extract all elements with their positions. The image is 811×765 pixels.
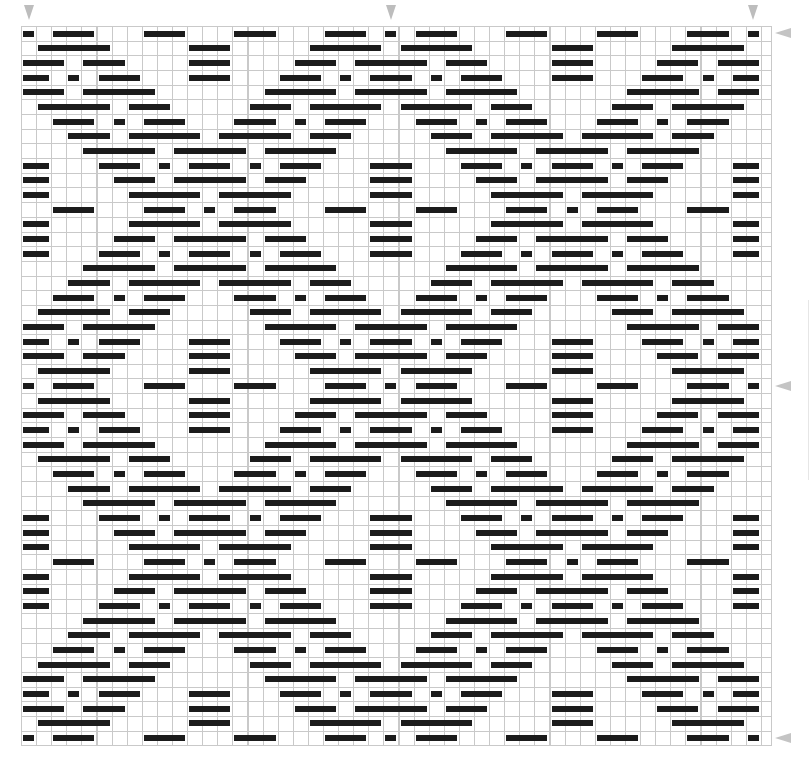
filled-cells-bar: [733, 588, 759, 594]
filled-cells-bar: [491, 662, 532, 668]
filled-cells-bar: [114, 119, 125, 125]
filled-cells-bar: [597, 559, 638, 565]
filled-cells-bar: [642, 691, 683, 697]
filled-cells-bar: [733, 427, 759, 433]
filled-cells-bar: [461, 251, 502, 257]
filled-cells-bar: [657, 60, 698, 66]
filled-cells-bar: [370, 251, 411, 257]
filled-cells-bar: [310, 368, 382, 374]
filled-cells-bar: [23, 192, 49, 198]
filled-cells-bar: [536, 265, 608, 271]
filled-cells-bar: [250, 309, 291, 315]
filled-cells-bar: [219, 486, 291, 492]
filled-cells-bar: [642, 339, 683, 345]
filled-cells-bar: [99, 603, 140, 609]
filled-cells-bar: [597, 119, 638, 125]
filled-cells-bar: [401, 662, 473, 668]
filled-cells-bar: [144, 31, 185, 37]
filled-cells-bar: [536, 500, 608, 506]
filled-cells-bar: [23, 177, 49, 183]
filled-cells-bar: [265, 530, 306, 536]
filled-cells-bar: [401, 456, 473, 462]
filled-cells-bar: [23, 236, 49, 242]
filled-cells-bar: [401, 309, 473, 315]
filled-cells-bar: [446, 618, 518, 624]
filled-cells-bar: [612, 251, 623, 257]
filled-cells-bar: [23, 588, 49, 594]
filled-cells-bar: [340, 75, 351, 81]
filled-cells-bar: [68, 75, 79, 81]
filled-cells-bar: [582, 280, 654, 286]
filled-cells-bar: [68, 486, 109, 492]
filled-cells-bar: [476, 236, 517, 242]
filled-cells-bar: [355, 60, 427, 66]
filled-cells-bar: [174, 500, 246, 506]
filled-cells-bar: [189, 353, 230, 359]
filled-cells-bar: [325, 31, 366, 37]
filled-cells-bar: [370, 544, 411, 550]
filled-cells-bar: [219, 574, 291, 580]
filled-cells-bar: [53, 31, 94, 37]
filled-cells-bar: [23, 544, 49, 550]
filled-cells-bar: [23, 31, 34, 37]
filled-cells-bar: [733, 251, 759, 257]
filled-cells-bar: [431, 427, 442, 433]
filled-cells-bar: [627, 236, 668, 242]
filled-cells-bar: [189, 398, 230, 404]
filled-cells-bar: [672, 133, 713, 139]
filled-cells-bar: [370, 339, 411, 345]
filled-cells-bar: [718, 676, 759, 682]
filled-cells-bar: [129, 309, 170, 315]
filled-cells-bar: [114, 295, 125, 301]
filled-cells-bar: [325, 119, 366, 125]
filled-cells-bar: [657, 412, 698, 418]
filled-cells-bar: [23, 574, 49, 580]
filled-cells-bar: [370, 75, 411, 81]
filled-cells-bar: [672, 720, 744, 726]
filled-cells-bar: [265, 618, 337, 624]
down-triangle-icon: [24, 5, 34, 20]
filled-cells-bar: [491, 280, 563, 286]
filled-cells-bar: [250, 603, 261, 609]
filled-cells-bar: [416, 207, 457, 213]
filled-cells-bar: [144, 471, 185, 477]
filled-cells-bar: [657, 119, 668, 125]
filled-cells-bar: [627, 588, 668, 594]
filled-cells-bar: [189, 427, 230, 433]
filled-cells-bar: [265, 265, 337, 271]
filled-cells-bar: [597, 207, 638, 213]
filled-cells-bar: [234, 647, 275, 653]
filled-cells-bar: [23, 75, 49, 81]
filled-cells-bar: [114, 471, 125, 477]
filled-cells-bar: [491, 632, 563, 638]
filled-cells-bar: [340, 339, 351, 345]
filled-cells-bar: [627, 500, 699, 506]
filled-cells-bar: [99, 251, 140, 257]
filled-cells-bar: [250, 456, 291, 462]
filled-cells-bar: [597, 295, 638, 301]
filled-cells-bar: [491, 544, 563, 550]
filled-cells-bar: [703, 691, 714, 697]
filled-cells-bar: [657, 471, 668, 477]
filled-cells-bar: [672, 368, 744, 374]
filled-cells-bar: [23, 221, 49, 227]
filled-cells-bar: [552, 75, 593, 81]
filled-cells-bar: [672, 280, 713, 286]
filled-cells-bar: [114, 530, 155, 536]
filled-cells-bar: [355, 353, 427, 359]
filled-cells-bar: [385, 31, 396, 37]
filled-cells-bar: [642, 75, 683, 81]
filled-cells-bar: [295, 412, 336, 418]
filled-cells-bar: [370, 221, 411, 227]
filled-cells-bar: [250, 163, 261, 169]
filled-cells-bar: [552, 339, 593, 345]
filled-cells-bar: [612, 603, 623, 609]
page-edge-line: [808, 300, 809, 480]
filled-cells-bar: [657, 295, 668, 301]
filled-cells-bar: [189, 75, 230, 81]
filled-cells-bar: [552, 60, 593, 66]
filled-cells-bar: [234, 31, 275, 37]
filled-cells-bar: [310, 486, 351, 492]
filled-cells-bar: [23, 515, 49, 521]
filled-cells-bar: [567, 559, 578, 565]
